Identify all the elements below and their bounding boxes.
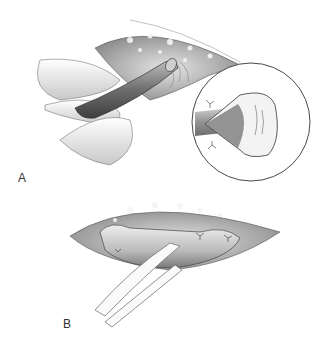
surgical-illustration: A B	[0, 0, 334, 346]
illustration-drawing	[0, 0, 334, 346]
panel-label-a: A	[18, 172, 26, 184]
panel-b-drawing	[70, 202, 280, 327]
panel-a-drawing	[38, 20, 311, 181]
panel-label-b: B	[63, 318, 71, 330]
